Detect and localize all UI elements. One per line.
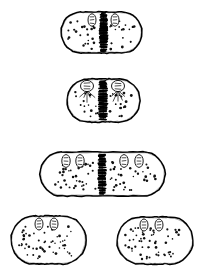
- stipple-dot: [137, 227, 139, 229]
- stipple-dot: [82, 188, 84, 190]
- septum-band: [98, 154, 106, 194]
- stipple-dot: [94, 188, 96, 190]
- stipple-dot: [69, 186, 71, 188]
- stipple-dot: [67, 29, 69, 31]
- nucleoid-oval-3: [120, 155, 128, 168]
- stipple-dot: [122, 28, 125, 31]
- stipple-dot: [139, 253, 142, 256]
- stipple-dot: [142, 233, 145, 236]
- stipple-dot: [87, 34, 89, 36]
- stipple-dot: [115, 103, 117, 105]
- cell-membrane-inner-line: [11, 216, 85, 263]
- stipple-dot: [64, 248, 66, 250]
- stipple-dot: [75, 30, 78, 33]
- stipple-dot: [90, 48, 92, 50]
- nucleoid-oval-left: [140, 219, 148, 231]
- septum-band: [98, 81, 107, 120]
- stipple-dot: [81, 26, 84, 29]
- stipple-dot: [149, 256, 151, 258]
- stipple-dot: [56, 236, 58, 238]
- stipple-dot: [68, 252, 70, 254]
- stipple-dot: [92, 170, 94, 172]
- stipple-dot: [131, 250, 133, 252]
- stipple-dot: [141, 258, 143, 260]
- stipple-dot: [22, 229, 24, 231]
- stipple-dot: [141, 246, 143, 248]
- stipple-dot: [137, 172, 139, 174]
- stipple-dot: [134, 227, 136, 229]
- stipple-dot: [69, 21, 72, 24]
- stipple-dot: [122, 37, 124, 39]
- cell-stage-4-daughter-right: [117, 217, 193, 265]
- stipple-dot: [134, 170, 136, 172]
- stipple-dot: [32, 248, 34, 250]
- stipple-dot: [111, 43, 113, 45]
- stipple-dot: [47, 226, 49, 228]
- stipple-dot: [125, 100, 128, 103]
- stipple-dot: [52, 240, 54, 242]
- stipple-dot: [121, 46, 124, 49]
- stipple-dot: [118, 174, 120, 176]
- stipple-dot: [141, 240, 143, 242]
- stipple-dot: [131, 247, 133, 249]
- stipple-dot: [95, 105, 97, 107]
- stipple-dot: [146, 256, 148, 258]
- stipple-dot: [90, 115, 92, 117]
- stipple-dot: [124, 244, 126, 246]
- stipple-dot: [122, 181, 125, 184]
- stipple-dot: [158, 251, 160, 253]
- stipple-dot: [73, 187, 75, 189]
- stipple-dot: [28, 246, 31, 249]
- stipple-dot: [125, 24, 127, 26]
- stipple-dot: [55, 252, 58, 255]
- stipple-dot: [123, 189, 125, 191]
- stipple-dot: [115, 179, 117, 181]
- stipple-dot: [62, 240, 64, 242]
- stipple-dot: [129, 29, 131, 31]
- stipple-dot: [44, 241, 46, 243]
- stipple-dot: [83, 25, 86, 28]
- stipple-dot: [25, 233, 27, 235]
- stipple-dot: [86, 183, 88, 185]
- stipple-dot: [147, 167, 150, 170]
- cell-stage-1: [61, 12, 142, 54]
- stipple-dot: [68, 36, 71, 39]
- stipple-dot: [133, 239, 135, 241]
- stipple-dot: [155, 240, 157, 242]
- stipple-dot: [65, 183, 67, 185]
- stipple-dot: [119, 183, 121, 185]
- stipple-dot: [134, 246, 136, 248]
- stipple-dot: [146, 179, 149, 182]
- stipple-dot: [86, 28, 88, 30]
- stipple-dot: [84, 163, 87, 166]
- stipple-dot: [120, 174, 123, 177]
- stipple-dot: [166, 228, 168, 230]
- stipple-dot: [129, 239, 131, 241]
- stipple-dot: [74, 91, 76, 93]
- stipple-dot: [115, 184, 118, 187]
- stipple-dot: [109, 110, 112, 113]
- stipple-dot: [124, 234, 127, 237]
- stipple-dot: [142, 171, 144, 173]
- nucleoid-oval-left: [88, 14, 96, 26]
- stipple-dot: [68, 170, 70, 172]
- stipple-dot: [165, 241, 168, 244]
- stipple-dot: [65, 168, 67, 170]
- stipple-dot: [153, 234, 155, 236]
- stipple-dot: [111, 177, 113, 179]
- stipple-dot: [148, 246, 150, 248]
- stipple-dot: [154, 178, 157, 181]
- stipple-dot: [74, 185, 77, 188]
- stipple-dot: [140, 238, 142, 240]
- stipple-dot: [38, 239, 40, 241]
- stipple-dot: [149, 240, 151, 242]
- stipple-dot: [54, 242, 56, 244]
- stipple-dot: [172, 253, 174, 255]
- stipple-dot: [90, 109, 93, 112]
- stipple-dot: [88, 40, 90, 42]
- stipple-dot: [75, 175, 78, 178]
- stipple-dot: [21, 243, 23, 245]
- panels-layer: [11, 12, 193, 265]
- stipple-dot: [112, 162, 115, 165]
- stipple-dot: [153, 232, 155, 234]
